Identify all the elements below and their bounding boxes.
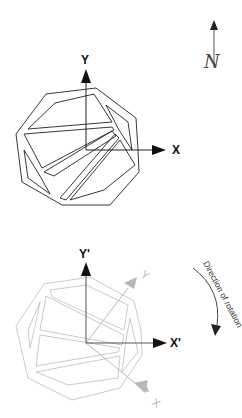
ghost-y-label: Y (139, 268, 152, 282)
y-axis-arrowhead-icon (81, 69, 91, 83)
original-orientation-panel (16, 88, 139, 205)
x-axis-arrowhead-icon (152, 145, 166, 155)
north-arrowhead-icon (210, 20, 218, 30)
outer-outline (16, 88, 139, 205)
piece-rotated-d (36, 335, 120, 366)
north-label: N (203, 51, 221, 72)
y-axis-label: Y (81, 53, 89, 67)
piece-upper-left (24, 127, 114, 168)
piece-top (28, 94, 112, 129)
piece-diagonal-long (60, 134, 119, 200)
piece-rotated-c (28, 302, 40, 348)
north-arrow: N (203, 20, 221, 72)
piece-rotated-b (40, 296, 124, 345)
rotation-indicator: Direction of rotation (193, 259, 242, 336)
rotation-label: Direction of rotation (201, 259, 242, 329)
x-axis-label: X (172, 143, 180, 157)
rotation-diagram: N Y X Y X (0, 0, 242, 418)
piece-left (24, 150, 50, 194)
y-prime-label: Y' (79, 247, 90, 261)
x-prime-label: X' (170, 336, 181, 350)
rotation-arrowhead-icon (211, 324, 221, 336)
y-prime-arrowhead-icon (81, 262, 91, 276)
x-prime-arrowhead-icon (153, 338, 167, 348)
ghost-y-arrowhead-icon (124, 277, 137, 289)
ghost-x-label: X (150, 396, 163, 410)
original-axes-ghost: Y X (86, 268, 163, 410)
rotated-orientation-panel (16, 277, 142, 400)
